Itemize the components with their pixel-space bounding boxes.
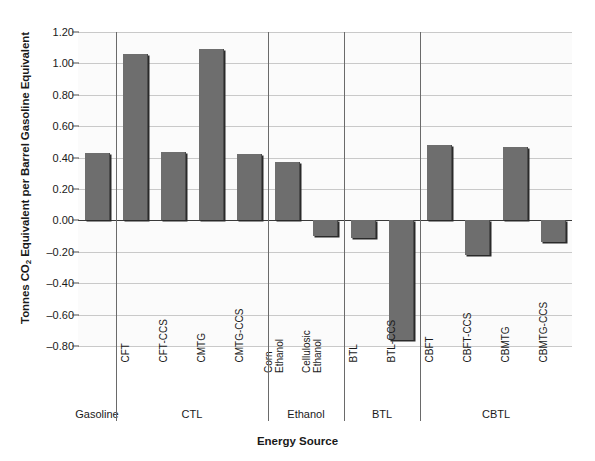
y-axis-tick-mark: [72, 314, 79, 315]
y-axis-tick-label: 0.60: [28, 121, 74, 132]
x-axis-category-label: CBFT: [425, 336, 436, 362]
x-axis-category-label: CMTG: [197, 333, 208, 362]
y-axis-tick-label: 0.00: [28, 215, 74, 226]
x-axis-group-label: CTL: [182, 408, 203, 420]
grid-line: [78, 32, 572, 33]
x-axis-group-label: CBTL: [482, 408, 510, 420]
x-axis-category-label: BTL-CCS: [387, 320, 398, 363]
bar: [541, 220, 566, 242]
y-axis-tick-label: 0.40: [28, 152, 74, 163]
y-axis-tick-mark: [72, 189, 79, 190]
group-separator: [116, 32, 117, 421]
x-axis-group-label: Gasoline: [75, 408, 118, 420]
y-axis-tick-mark: [72, 32, 79, 33]
y-axis-tick-label: –0.40: [28, 278, 74, 289]
grid-line: [78, 315, 572, 316]
x-axis-category-label: CFT-CCS: [159, 319, 170, 362]
bar: [123, 54, 148, 220]
bar: [351, 220, 376, 237]
bar: [237, 154, 262, 221]
y-axis-tick-mark: [72, 157, 79, 158]
bar: [85, 153, 110, 221]
y-axis-title-subscript: 2: [24, 260, 33, 264]
y-axis-tick-mark: [72, 251, 79, 252]
y-axis-tick-label: 1.20: [28, 27, 74, 38]
x-axis-category-label: Cellulosic Ethanol: [302, 330, 323, 373]
group-separator: [268, 32, 269, 421]
x-axis-category-label: CBFT-CCS: [463, 313, 474, 363]
y-axis-tick-mark: [72, 94, 79, 95]
x-axis-category-label: CBMTG: [501, 326, 512, 362]
y-axis-tick-label: –0.20: [28, 246, 74, 257]
x-axis-category-label: CMTG-CCS: [235, 309, 246, 363]
x-axis-category-label: CFT: [121, 343, 132, 362]
y-axis-tick-mark: [72, 283, 79, 284]
bar: [427, 145, 452, 220]
y-axis-tick-label: 0.20: [28, 184, 74, 195]
grid-line: [78, 126, 572, 127]
y-axis-tick-label: –0.60: [28, 309, 74, 320]
y-axis-tick-label: –0.80: [28, 341, 74, 352]
y-axis-tick-label: 0.80: [28, 89, 74, 100]
x-axis-group-label: BTL: [372, 408, 392, 420]
y-axis-tick-mark: [72, 63, 79, 64]
bar: [161, 152, 186, 220]
grid-line: [78, 252, 572, 253]
bar: [465, 220, 490, 255]
grid-line: [78, 283, 572, 284]
grid-line: [78, 63, 572, 64]
y-axis-tick-mark: [72, 126, 79, 127]
y-axis-tick-mark: [72, 346, 79, 347]
x-axis-group-label: Ethanol: [287, 408, 324, 420]
bar: [199, 49, 224, 220]
plot-area: [78, 32, 572, 346]
y-axis-tick-mark: [72, 220, 79, 221]
y-axis-tick-label: 1.00: [28, 58, 74, 69]
grid-line: [78, 95, 572, 96]
chart-container: Tonnes CO2 Equivalent per Barrel Gasolin…: [0, 0, 595, 461]
bar: [503, 147, 528, 221]
bar: [313, 220, 338, 236]
x-axis-title: Energy Source: [0, 435, 595, 447]
group-separator: [420, 32, 421, 421]
x-axis-category-label: BTL: [349, 344, 360, 362]
group-separator: [344, 32, 345, 421]
grid-line: [78, 158, 572, 159]
grid-line: [78, 189, 572, 190]
x-axis-category-label: CBMTG-CCS: [539, 302, 550, 363]
bar: [275, 162, 300, 220]
grid-line: [78, 346, 572, 347]
